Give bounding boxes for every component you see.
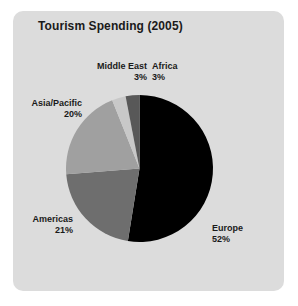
pie-label-americas-name: Americas — [0, 214, 73, 225]
pie-label-africa-value: 3% — [152, 72, 178, 83]
pie-label-africa: Africa 3% — [152, 61, 178, 83]
pie-label-asia-pacific-name: Asia/Pacific — [0, 98, 82, 109]
pie-slice-group — [66, 95, 213, 242]
pie-slice-europe — [128, 95, 213, 242]
chart-figure: Tourism Spending (2005) Europe 52% Ameri… — [0, 0, 298, 306]
pie-label-europe: Europe 52% — [212, 223, 243, 245]
pie-chart — [0, 0, 298, 306]
pie-label-asia-pacific-value: 20% — [0, 109, 82, 120]
pie-label-middle-east: Middle East 3% — [47, 61, 147, 83]
pie-slice-americas — [66, 169, 139, 242]
pie-label-europe-value: 52% — [212, 234, 243, 245]
pie-label-middle-east-name: Middle East — [47, 61, 147, 72]
pie-label-americas-value: 21% — [0, 225, 73, 236]
pie-label-americas: Americas 21% — [0, 214, 73, 236]
pie-label-asia-pacific: Asia/Pacific 20% — [0, 98, 82, 120]
pie-label-africa-name: Africa — [152, 61, 178, 72]
pie-label-europe-name: Europe — [212, 223, 243, 234]
pie-label-middle-east-value: 3% — [47, 72, 147, 83]
